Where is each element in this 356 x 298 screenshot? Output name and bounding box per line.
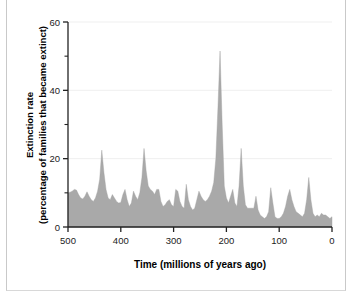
y-axis-ticks (63, 22, 68, 227)
x-axis-tick-labels: 5004003002001000 (60, 235, 335, 246)
x-tick-label: 500 (60, 235, 76, 246)
x-tick-label: 0 (329, 235, 334, 246)
x-axis-ticks (68, 227, 332, 232)
y-tick-label: 60 (49, 17, 60, 28)
y-tick-label: 0 (55, 222, 60, 233)
y-axis-title-line2: (percentage of families that became exti… (37, 26, 48, 224)
x-axis-title: Time (millions of years ago) (134, 259, 266, 270)
x-tick-label: 300 (166, 235, 182, 246)
y-tick-label: 40 (49, 85, 60, 96)
y-tick-label: 20 (49, 153, 60, 164)
y-axis-tick-labels: 0204060 (49, 17, 60, 233)
extinction-rate-area-chart: 0204060 5004003002001000 Time (millions … (0, 0, 356, 298)
x-tick-label: 100 (271, 235, 287, 246)
chart-plot-area: 0204060 5004003002001000 Time (millions … (0, 0, 356, 298)
x-tick-label: 400 (113, 235, 129, 246)
figure-container: 0204060 5004003002001000 Time (millions … (0, 0, 356, 298)
x-tick-label: 200 (218, 235, 234, 246)
y-axis-title-line1: Extinction rate (24, 92, 35, 158)
